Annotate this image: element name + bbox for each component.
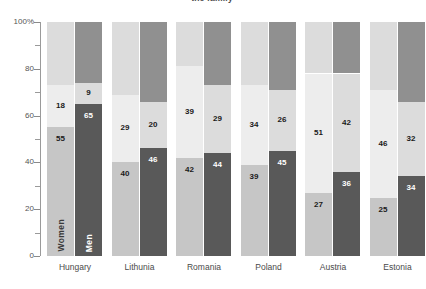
segment-value: 40 xyxy=(121,170,130,178)
segment-value: 44 xyxy=(213,161,222,169)
segment-women-middle: 18 xyxy=(47,85,74,127)
bar-women-lithunia[interactable]: 4029 xyxy=(112,22,139,256)
segment-value: 46 xyxy=(379,140,388,148)
y-axis-line xyxy=(40,22,41,256)
segment-men-bottom: 36 xyxy=(333,172,360,256)
bar-women-poland[interactable]: 3934 xyxy=(241,22,268,256)
segment-value: 65 xyxy=(84,112,93,120)
segment-women-middle: 34 xyxy=(241,85,268,165)
bar-men-estonia[interactable]: 3432 xyxy=(398,22,425,256)
segment-women-top xyxy=(47,22,74,85)
segment-value: 18 xyxy=(56,102,65,110)
segment-value: 32 xyxy=(407,135,416,143)
y-tick-60 xyxy=(34,116,40,117)
segment-men-top xyxy=(204,22,231,85)
bar-group: 39344526Poland xyxy=(241,22,297,256)
segment-women-top xyxy=(241,22,268,85)
segment-men-middle: 9 xyxy=(75,83,102,104)
segment-value: 29 xyxy=(121,124,130,132)
segment-value: 42 xyxy=(185,166,194,174)
category-label-lithunia: Lithunia xyxy=(112,262,168,272)
segment-value: 42 xyxy=(342,119,351,127)
segment-value: 46 xyxy=(149,156,158,164)
bar-women-romania[interactable]: 4239 xyxy=(176,22,203,256)
segment-men-middle: 29 xyxy=(204,85,231,153)
y-tick-80 xyxy=(34,69,40,70)
segment-women-middle: 29 xyxy=(112,95,139,163)
segment-women-middle: 51 xyxy=(305,74,332,193)
segment-women-middle: 46 xyxy=(370,90,397,198)
y-tick-label-0: 0 xyxy=(0,251,34,260)
bar-group: 25463432Estonia xyxy=(370,22,426,256)
y-tick-label-40: 40 xyxy=(0,157,34,166)
segment-women-middle: 39 xyxy=(176,66,203,157)
y-minor-tick-90 xyxy=(35,45,40,46)
segment-women-top xyxy=(176,22,203,66)
segment-women-top xyxy=(370,22,397,90)
y-minor-tick-50 xyxy=(35,139,40,140)
bar-men-poland[interactable]: 4526 xyxy=(269,22,296,256)
segment-men-middle: 26 xyxy=(269,90,296,151)
segment-value: 34 xyxy=(250,121,259,129)
segment-value: 27 xyxy=(314,201,323,209)
segment-men-middle: 42 xyxy=(333,74,360,172)
segment-women-bottom: 40 xyxy=(112,162,139,256)
category-label-hungary: Hungary xyxy=(47,262,103,272)
segment-value: 55 xyxy=(56,135,65,143)
y-minor-tick-10 xyxy=(35,233,40,234)
segment-men-bottom: 46 xyxy=(140,148,167,256)
y-tick-label-100: 100% xyxy=(0,17,34,26)
y-tick-0 xyxy=(34,256,40,257)
segment-men-top xyxy=(333,22,360,73)
segment-value: 36 xyxy=(342,180,351,188)
segment-value: 9 xyxy=(86,89,90,97)
segment-women-bottom: 27 xyxy=(305,193,332,256)
segment-men-top xyxy=(75,22,102,83)
y-minor-tick-30 xyxy=(35,186,40,187)
bar-men-romania[interactable]: 4429 xyxy=(204,22,231,256)
segment-men-middle: 32 xyxy=(398,102,425,177)
bar-group: 40294620Lithunia xyxy=(112,22,168,256)
segment-men-top xyxy=(140,22,167,102)
category-label-poland: Poland xyxy=(241,262,297,272)
y-tick-label-60: 60 xyxy=(0,111,34,120)
segment-men-top xyxy=(398,22,425,102)
y-minor-tick-70 xyxy=(35,92,40,93)
segment-value: 34 xyxy=(407,184,416,192)
bar-women-austria[interactable]: 2751 xyxy=(305,22,332,256)
segment-value: 45 xyxy=(278,159,287,167)
segment-value: 39 xyxy=(250,173,259,181)
category-label-estonia: Estonia xyxy=(370,262,426,272)
plot-area: 020406080100% 5518Women659MenHungary4029… xyxy=(40,22,424,256)
segment-women-bottom: 42 xyxy=(176,158,203,256)
bar-group: 5518Women659MenHungary xyxy=(47,22,103,256)
bar-women-estonia[interactable]: 2546 xyxy=(370,22,397,256)
segment-men-bottom: 45 xyxy=(269,151,296,256)
segment-value: 25 xyxy=(379,206,388,214)
bar-group: 27513642Austria xyxy=(305,22,361,256)
y-tick-100 xyxy=(34,22,40,23)
segment-women-top xyxy=(112,22,139,95)
segment-men-top xyxy=(269,22,296,90)
y-tick-label-80: 80 xyxy=(0,64,34,73)
y-tick-label-20: 20 xyxy=(0,204,34,213)
segment-value: 39 xyxy=(185,108,194,116)
segment-value: 20 xyxy=(149,121,158,129)
bar-group: 42394429Romania xyxy=(176,22,232,256)
segment-women-bottom: 39 xyxy=(241,165,268,256)
segment-value: 51 xyxy=(314,129,323,137)
segment-value: 26 xyxy=(278,116,287,124)
category-label-romania: Romania xyxy=(176,262,232,272)
category-label-austria: Austria xyxy=(305,262,361,272)
bar-men-austria[interactable]: 3642 xyxy=(333,22,360,256)
segment-women-bottom: 25 xyxy=(370,198,397,257)
segment-men-bottom: 44 xyxy=(204,153,231,256)
bar-women-hungary[interactable]: 5518Women xyxy=(47,22,74,256)
bar-men-hungary[interactable]: 659Men xyxy=(75,22,102,256)
segment-women-top xyxy=(305,22,332,73)
segment-value: 29 xyxy=(213,115,222,123)
bar-men-lithunia[interactable]: 4620 xyxy=(140,22,167,256)
y-tick-20 xyxy=(34,209,40,210)
segment-men-bottom: 34 xyxy=(398,176,425,256)
